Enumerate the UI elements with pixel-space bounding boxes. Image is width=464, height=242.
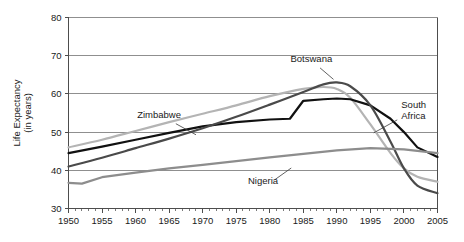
x-tick-label-1970: 1970 — [192, 215, 213, 226]
y-axis-title-text: Life Expectancy(in years) — [11, 79, 33, 146]
leader-line-botswana — [320, 68, 333, 79]
y-tick-label-80: 80 — [51, 12, 62, 23]
y-tick-labels: 304050607080 — [51, 12, 62, 214]
x-tick-label-2000: 2000 — [393, 215, 414, 226]
x-tick-label-1955: 1955 — [91, 215, 112, 226]
series-label-south-africa: SouthAfrica — [401, 99, 426, 121]
life-expectancy-chart: 304050607080 195019551960196519701975198… — [0, 0, 464, 242]
x-tick-label-1950: 1950 — [58, 215, 79, 226]
x-tick-label-1990: 1990 — [326, 215, 347, 226]
y-tick-label-40: 40 — [51, 165, 62, 176]
x-tick-labels: 1950195519601965197019751980198519901995… — [58, 215, 448, 226]
x-tick-label-2005: 2005 — [427, 215, 448, 226]
x-tick-label-1995: 1995 — [360, 215, 381, 226]
series-label-botswana: Botswana — [291, 53, 333, 64]
series-line-zimbabwe — [69, 87, 438, 182]
chart-canvas: 304050607080 195019551960196519701975198… — [0, 0, 464, 242]
y-axis-title: Life Expectancy(in years) — [11, 79, 33, 146]
x-tick-label-1960: 1960 — [125, 215, 146, 226]
y-tick-label-60: 60 — [51, 88, 62, 99]
series-label-zimbabwe: Zimbabwe — [137, 109, 181, 120]
leader-lines-group — [176, 68, 397, 180]
y-tick-label-30: 30 — [51, 203, 62, 214]
y-tick-label-50: 50 — [51, 127, 62, 138]
x-tick-label-1975: 1975 — [226, 215, 247, 226]
x-tick-label-1985: 1985 — [293, 215, 314, 226]
y-tick-label-70: 70 — [51, 50, 62, 61]
x-tick-label-1965: 1965 — [159, 215, 180, 226]
series-label-nigeria: Nigeria — [248, 175, 279, 186]
x-tick-label-1980: 1980 — [259, 215, 280, 226]
gridlines-group — [69, 18, 438, 171]
